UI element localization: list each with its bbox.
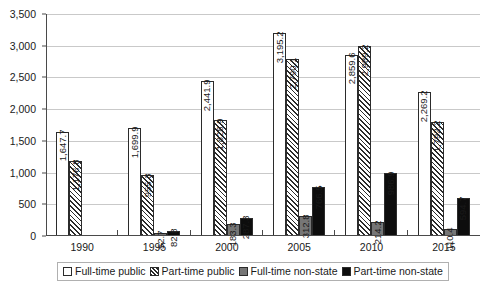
y-axis-line (46, 14, 47, 236)
y-axis-tick-label: 500 (18, 199, 36, 210)
y-axis-tick-label: 2,000 (10, 104, 36, 115)
x-axis-label-2010: 2010 (335, 238, 407, 256)
x-axis-line (46, 235, 480, 236)
x-axis-label-2015: 2015 (408, 238, 480, 256)
y-axis-tick-label: 1,000 (10, 167, 36, 178)
bar[interactable]: 287.3 (240, 218, 253, 236)
legend-swatch-icon (239, 267, 248, 276)
y-axis-tick-label: 3,500 (10, 9, 36, 20)
legend-item[interactable]: Full-time non-state (239, 266, 338, 277)
bar[interactable]: 214.2 (371, 222, 384, 236)
bar-value-label: 594.7 (454, 184, 464, 208)
legend-swatch-icon (63, 267, 72, 276)
bar-value-label: 1,176.8 (66, 144, 76, 176)
bar-value-text: 2,790.1 (288, 57, 298, 89)
bar-value-text: 1,828.9 (216, 118, 226, 150)
x-axis-label-2000: 2000 (191, 238, 263, 256)
bar-value-label: 2,790.1 (283, 41, 293, 73)
y-axis-tick-label: 3,000 (10, 40, 36, 51)
bar-value-label: 1,647.7 (53, 114, 63, 146)
bar[interactable]: 312.8 (299, 216, 312, 236)
bar-slot (95, 14, 108, 236)
legend-item[interactable]: Full-time public (63, 266, 146, 277)
bar-slot: 287.3 (240, 14, 253, 236)
bar-groups: 1,647.71,176.81,699.9955.352.782.82,441.… (46, 14, 480, 236)
bar-slot: 214.2 (371, 14, 384, 236)
bar-value-label: 2,989.2 (355, 29, 365, 61)
x-axis-labels: 199019952000200520102015 (46, 238, 480, 256)
bar-value-label: 214.2 (368, 209, 378, 233)
bar-value-text: 955.3 (143, 173, 153, 197)
bar-value-text: 2,989.2 (360, 44, 370, 76)
bar-slot: 2,989.2 (358, 14, 371, 236)
bar-value-label: 1,828.9 (211, 102, 221, 134)
legend-swatch-icon (150, 267, 159, 276)
bar[interactable]: 594.7 (457, 198, 470, 236)
bar-group-1990: 1,647.71,176.8 (46, 14, 118, 236)
bar-value-text: 986.9 (386, 171, 396, 195)
bar-slot (82, 14, 95, 236)
bar-group-2015: 2,269.21,792.2110.4594.7 (408, 14, 480, 236)
bar[interactable]: 2,989.2 (358, 46, 371, 236)
bar[interactable]: 986.9 (384, 173, 397, 236)
chart-legend: Full-time publicPart-time publicFull-tim… (57, 262, 449, 281)
y-axis-tick-label: 0 (30, 231, 36, 242)
plot-area: 1,647.71,176.81,699.9955.352.782.82,441.… (46, 14, 480, 236)
bar-slot: 1,647.7 (56, 14, 69, 236)
y-axis: 05001,0001,5002,0002,5003,0003,500 (0, 14, 42, 236)
legend-label: Part-time non-state (354, 266, 443, 277)
bar-slot: 312.8 (299, 14, 312, 236)
bar-value-label: 312.8 (296, 202, 306, 226)
bar[interactable]: 2,859.6 (345, 55, 358, 236)
bar-slot: 1,699.9 (128, 14, 141, 236)
bar-group-2000: 2,441.91,828.9183.3287.3 (191, 14, 263, 236)
legend-swatch-icon (342, 267, 351, 276)
bar-value-label: 183.3 (224, 210, 234, 234)
bar-value-text: 1,699.9 (130, 126, 140, 158)
bar-value-label: 766.5 (309, 174, 319, 198)
bar-slot: 594.7 (457, 14, 470, 236)
bar-value-text: 594.7 (459, 196, 469, 220)
legend-label: Full-time public (75, 266, 146, 277)
bar-slot: 82.8 (167, 14, 180, 236)
bar-group-1995: 1,699.9955.352.782.8 (118, 14, 190, 236)
bar[interactable]: 766.5 (312, 187, 325, 236)
legend-item[interactable]: Part-time public (150, 266, 235, 277)
legend-item[interactable]: Part-time non-state (342, 266, 443, 277)
y-axis-tick-label: 1,500 (10, 136, 36, 147)
bar-slot: 52.7 (154, 14, 167, 236)
bar-value-label: 1,792.2 (428, 104, 438, 136)
bar[interactable]: 1,176.8 (69, 161, 82, 236)
x-axis-label-1990: 1990 (46, 238, 118, 256)
bar-chart: 05001,0001,5002,0002,5003,0003,500 1,647… (0, 0, 490, 295)
bar-value-label: 2,859.6 (342, 37, 352, 69)
x-axis-label-2005: 2005 (263, 238, 335, 256)
legend-label: Full-time non-state (251, 266, 338, 277)
bar-slot: 766.5 (312, 14, 325, 236)
bar-value-text: 1,176.8 (71, 159, 81, 191)
bar-value-text: 766.5 (314, 185, 324, 209)
bar-value-label: 2,441.9 (198, 63, 208, 95)
bar-value-label: 2,269.2 (415, 74, 425, 106)
bar-value-label: 955.3 (138, 162, 148, 186)
bar-value-label: 3,195.2 (270, 15, 280, 47)
bar-value-label: 287.3 (237, 204, 247, 228)
bar-slot: 955.3 (141, 14, 154, 236)
bar-group-2005: 3,195.22,790.1312.8766.5 (263, 14, 335, 236)
bar-value-label: 986.9 (381, 160, 391, 184)
bar-value-label: 1,699.9 (125, 110, 135, 142)
bar-slot: 1,176.8 (69, 14, 82, 236)
bar-slot: 1,828.9 (214, 14, 227, 236)
bar-slot: 1,792.2 (431, 14, 444, 236)
y-axis-tick-label: 2,500 (10, 72, 36, 83)
x-axis-label-1995: 1995 (118, 238, 190, 256)
bar-value-text: 1,792.2 (433, 120, 443, 152)
legend-label: Part-time public (162, 266, 235, 277)
bar-slot: 986.9 (384, 14, 397, 236)
bar-group-2010: 2,859.62,989.2214.2986.9 (335, 14, 407, 236)
